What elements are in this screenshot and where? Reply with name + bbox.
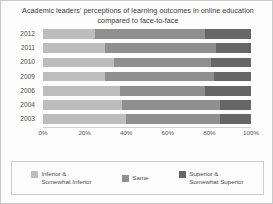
legend-swatch-icon	[31, 171, 38, 178]
x-tick-label: 40%	[120, 129, 132, 136]
bar-segment	[122, 100, 220, 110]
x-tick-label: 100%	[243, 129, 259, 136]
bar-segment	[105, 72, 213, 82]
year-axis-label: 2010	[1, 55, 39, 69]
bar-segment	[126, 114, 220, 124]
x-tick-label: 80%	[203, 129, 215, 136]
stacked-bar	[43, 29, 251, 39]
stacked-bar	[43, 100, 251, 110]
bar-segment	[216, 43, 251, 53]
bar-segment	[114, 58, 212, 68]
x-tick-label: 20%	[78, 129, 90, 136]
bar-row: 2010	[1, 55, 273, 69]
stacked-bar	[43, 114, 251, 124]
axis-line	[43, 127, 251, 128]
x-tick-label: 0%	[39, 129, 48, 136]
bar-row: 2009	[1, 70, 273, 84]
stacked-bar	[43, 72, 251, 82]
bar-segment	[43, 86, 120, 96]
legend-item[interactable]: Superior & Somewhat Superior	[179, 170, 243, 186]
legend-label: Same	[132, 174, 148, 182]
year-axis-label: 2009	[1, 70, 39, 84]
chart-legend: Inferior & Somewhat InferiorSameSuperior…	[11, 161, 264, 195]
x-tick-label: 60%	[162, 129, 174, 136]
bar-segment	[211, 58, 251, 68]
year-axis-label: 2004	[1, 98, 39, 112]
year-axis-label: 2003	[1, 112, 39, 126]
x-axis: 0%20%40%60%80%100%	[1, 127, 273, 141]
bar-segment	[120, 86, 205, 96]
bar-segment	[220, 100, 251, 110]
bar-segment	[95, 29, 205, 39]
chart-card: Academic leaders' perceptions of learnin…	[0, 0, 273, 204]
chart-title: Academic leaders' perceptions of learnin…	[15, 6, 261, 26]
bar-row: 2012	[1, 27, 273, 41]
legend-label: Superior & Somewhat Superior	[189, 170, 243, 186]
bar-segment	[43, 58, 114, 68]
bar-segment	[214, 72, 251, 82]
bar-segment	[43, 43, 105, 53]
stacked-bar	[43, 58, 251, 68]
legend-label: Inferior & Somewhat Inferior	[41, 170, 91, 186]
legend-swatch-icon	[122, 175, 129, 182]
bar-segment	[205, 29, 251, 39]
bar-row: 2003	[1, 112, 273, 126]
legend-item[interactable]: Same	[122, 174, 148, 182]
year-axis-label: 2006	[1, 84, 39, 98]
bar-segment	[43, 114, 126, 124]
bar-row: 2006	[1, 84, 273, 98]
bar-segment	[105, 43, 215, 53]
bar-segment	[43, 72, 105, 82]
legend-item[interactable]: Inferior & Somewhat Inferior	[31, 170, 91, 186]
bar-segment	[43, 100, 122, 110]
year-axis-label: 2011	[1, 41, 39, 55]
bar-segment	[43, 29, 95, 39]
bar-segment	[205, 86, 251, 96]
stacked-bar	[43, 86, 251, 96]
stacked-bar	[43, 43, 251, 53]
year-axis-label: 2012	[1, 27, 39, 41]
legend-swatch-icon	[179, 171, 186, 178]
bar-segment	[220, 114, 251, 124]
bar-row: 2011	[1, 41, 273, 55]
bar-row: 2004	[1, 98, 273, 112]
